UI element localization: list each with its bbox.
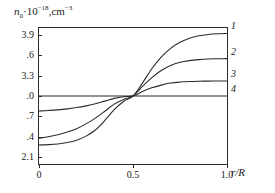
y-tick-label: 2.1 — [22, 152, 35, 162]
y-tick-label: 3.3 — [22, 71, 35, 81]
x-tick-label: 0.5 — [119, 169, 147, 180]
y-tick-label: .7 — [27, 111, 35, 121]
y-tick-mark — [38, 116, 42, 117]
curve-label-3: 3 — [231, 69, 236, 79]
y-axis-exponent: −18 — [38, 4, 49, 12]
plot-frame — [38, 27, 228, 165]
curve-2 — [39, 59, 227, 139]
curve-label-4: 4 — [231, 84, 236, 94]
chart-root: n0·10−18,cm−3 3.9.63.3.0.7.42.1 r/R 00.5… — [0, 0, 275, 193]
curve-label-2: 2 — [231, 47, 236, 57]
curve-canvas — [39, 28, 227, 164]
x-tick-mark — [133, 164, 134, 168]
y-axis-unit-exponent: −3 — [65, 4, 72, 12]
x-tick-label: 0 — [25, 169, 53, 180]
y-tick-mark — [38, 35, 42, 36]
curve-1 — [39, 33, 227, 145]
x-tick-label: 1.0 — [213, 169, 241, 180]
curve-label-1: 1 — [231, 21, 236, 31]
y-tick-label-column: 3.9.63.3.0.7.42.1 — [0, 0, 34, 193]
x-tick-mark — [39, 164, 40, 168]
y-tick-mark — [38, 76, 42, 77]
y-tick-label: .4 — [27, 132, 35, 142]
y-tick-label: .6 — [27, 50, 35, 60]
y-tick-label: .0 — [27, 91, 35, 101]
y-tick-label: 3.9 — [22, 30, 35, 40]
y-tick-mark — [38, 55, 42, 56]
y-axis-unit: cm — [51, 5, 64, 17]
x-tick-mark — [227, 164, 228, 168]
y-tick-mark — [38, 157, 42, 158]
y-tick-mark — [38, 137, 42, 138]
y-tick-mark — [38, 96, 42, 97]
